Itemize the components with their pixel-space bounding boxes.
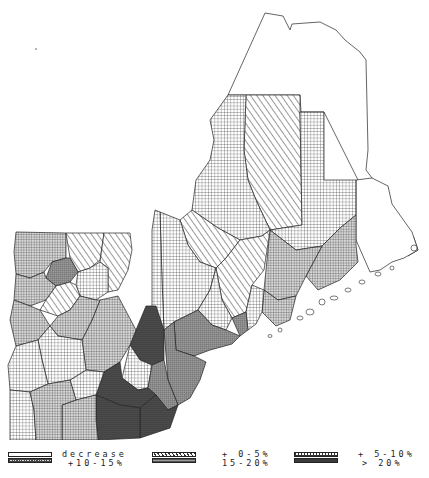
legend-swatch-decrease (8, 452, 52, 457)
legend-label-plus-15-20: 15-20% (222, 459, 271, 468)
legend-swatch-plus-0-5 (152, 452, 196, 457)
legend: decrease + 0-5% + 5-10% +10-15% 15-20% >… (0, 452, 429, 476)
legend-swatch-plus-5-10 (294, 452, 338, 457)
stray-dot (35, 48, 37, 50)
choropleth-map (0, 0, 429, 440)
legend-label-plus-10-15: +10-15% (68, 459, 125, 468)
legend-swatch-plus-15-20 (152, 458, 196, 463)
legend-swatch-over-20 (294, 458, 338, 463)
maine-state (160, 13, 418, 405)
county-washington (356, 178, 418, 272)
legend-swatch-plus-10-15 (8, 458, 52, 463)
legend-label-over-20: > 20% (362, 459, 403, 468)
